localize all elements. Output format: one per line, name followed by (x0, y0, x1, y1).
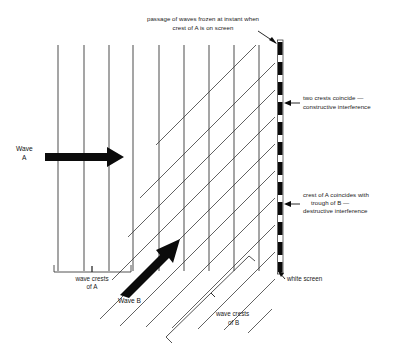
wave-crest-b-line (140, 63, 275, 198)
wave-crest-b-line (248, 309, 272, 333)
top-caption-line2: crest of A is on screen (173, 24, 234, 31)
thick-diagonal-arrow-icon (120, 239, 180, 298)
white-screen-strip (278, 40, 284, 274)
top-caption-line1: passage of waves frozen at instant when (147, 15, 259, 22)
destructive-label-line2: trough of B — (311, 199, 350, 206)
wave-crests-b-annotation-group: wave crests of B (166, 256, 255, 343)
dark-fringe (278, 42, 283, 55)
top-caption-group: passage of waves frozen at instant when … (147, 15, 277, 44)
wave-crests-b-label-line2: of B (228, 319, 239, 326)
white-screen-label: white screen (286, 275, 323, 282)
wave-a-label-line1: Wave (16, 145, 33, 152)
dark-fringe (278, 102, 283, 115)
left-arrow-icon (284, 100, 291, 106)
white-screen-annotation-group: white screen (278, 271, 323, 282)
horizontal-brace-icon (54, 265, 131, 272)
left-arrow-icon (284, 201, 291, 207)
dark-fringe (278, 142, 283, 155)
diagram-canvas: passage of waves frozen at instant when … (0, 0, 408, 359)
slanted-brace-icon (166, 256, 255, 343)
dark-fringe (278, 262, 283, 272)
wave-crest-b-line (128, 90, 275, 237)
wave-b-group: Wave B (118, 239, 180, 304)
dark-fringe (278, 202, 283, 215)
dark-fringe (278, 62, 283, 75)
destructive-label-line3: destructive interference (303, 207, 368, 214)
wave-a-label-line2: A (22, 154, 27, 161)
wave-b-label: Wave B (118, 297, 141, 304)
wave-crests-b-label-line1: wave crests (215, 310, 249, 317)
wave-crests-a-annotation-group: wave crests of A (54, 265, 131, 290)
wave-crest-b-line (146, 198, 275, 327)
wave-crests-a-label-line1: wave crests (74, 275, 108, 282)
constructive-label-line1: two crests coincide — (303, 94, 364, 101)
thick-right-arrow-icon (45, 147, 124, 167)
dark-fringe (278, 82, 283, 95)
top-caption-pointer-head-icon (269, 37, 277, 44)
destructive-label-line1: crest of A coincides with (303, 191, 369, 198)
wave-interference-diagram: passage of waves frozen at instant when … (0, 0, 408, 359)
dark-fringe (278, 242, 283, 255)
dark-fringe (278, 122, 283, 135)
wave-crest-b-line (156, 45, 256, 145)
destructive-annotation-group: crest of A coincides with trough of B — … (284, 191, 369, 214)
wave-crest-b-line (112, 117, 275, 280)
dark-fringe (278, 162, 283, 175)
wave-crests-a-label-line2: of A (87, 283, 99, 290)
dark-fringe (278, 222, 283, 235)
dark-fringe (278, 182, 283, 195)
constructive-annotation-group: two crests coincide — constructive inter… (284, 94, 371, 110)
white-screen-group (278, 40, 284, 274)
constructive-label-line2: constructive interference (303, 103, 371, 110)
wave-a-group: Wave A (16, 145, 124, 167)
